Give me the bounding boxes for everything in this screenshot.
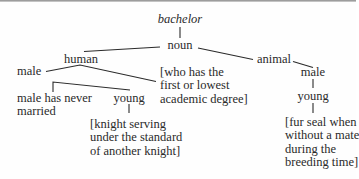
- node-human-young: young: [113, 92, 144, 105]
- edge-noun-human: [84, 47, 160, 52]
- edge-human-branches: [46, 65, 156, 82]
- node-fur-seal: [fur seal when without a mate during the…: [285, 116, 359, 169]
- node-animal-male: male: [301, 66, 325, 79]
- node-human: human: [64, 53, 98, 66]
- node-bachelor: bachelor: [158, 13, 202, 26]
- edge-noun-animal: [198, 48, 253, 60]
- node-human-male: male: [17, 65, 41, 78]
- node-animal-young: young: [297, 90, 328, 103]
- node-noun: noun: [168, 39, 193, 52]
- node-knight: [knight serving under the standard of an…: [90, 118, 182, 158]
- node-animal: animal: [257, 53, 291, 66]
- node-never-married: male has never married: [17, 92, 92, 119]
- node-academic-degree: [who has the first or lowest academic de…: [160, 66, 248, 106]
